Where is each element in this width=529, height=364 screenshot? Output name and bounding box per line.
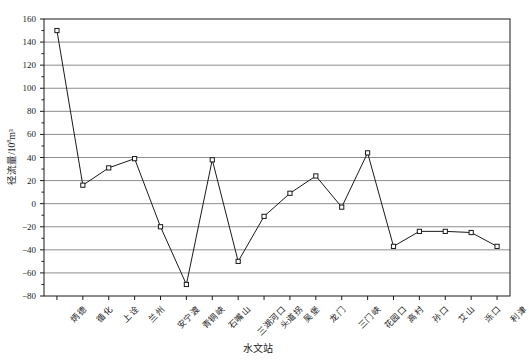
x-axis-tick-label: 花园口 [381, 303, 409, 331]
x-axis-tick-label: 孙口 [430, 303, 451, 324]
x-axis-tick-label: 吴堡 [300, 303, 321, 324]
x-axis-tick-label: 龙门 [326, 303, 347, 324]
x-axis-tick-label: 兰州 [145, 303, 166, 324]
x-axis-tick-label: 泺口 [481, 303, 502, 324]
x-axis-tick-label: 上诠 [119, 303, 140, 324]
x-axis-tick-label: 三门峡 [355, 303, 383, 331]
x-axis-tick-label: 炳德 [67, 303, 88, 324]
x-axis-title: 水文站 [0, 340, 516, 355]
x-axis-tick-label: 青铜峡 [199, 303, 227, 331]
x-axis-tick-label: 利津 [507, 303, 528, 324]
x-axis-tick-label: 高村 [404, 303, 425, 324]
x-axis-tick-label: 石嘴山 [225, 303, 253, 331]
x-axis-tick-label: 安宁渡 [173, 303, 201, 331]
x-axis-tick-label: 循化 [93, 303, 114, 324]
x-axis-tick-label: 艾山 [456, 303, 477, 324]
